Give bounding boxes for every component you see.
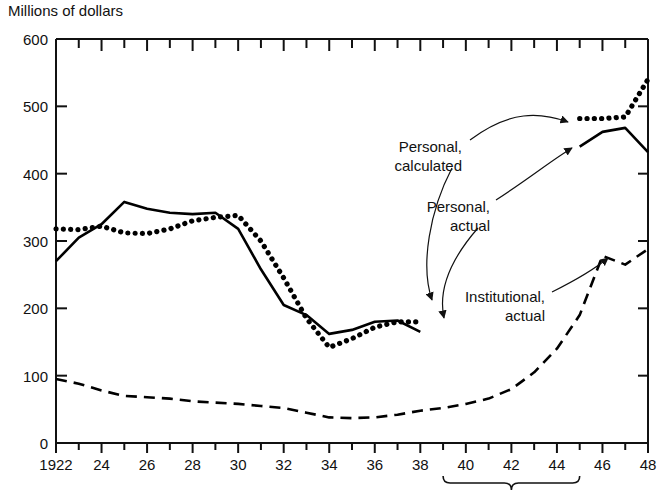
annotation-label-line2: actual	[505, 307, 545, 324]
series-path	[580, 79, 648, 118]
y-tick-label: 500	[23, 98, 48, 115]
y-tick-label: 0	[40, 435, 48, 452]
x-tick-label: 1922	[39, 456, 72, 473]
series-path	[56, 215, 420, 347]
y-tick-label: 200	[23, 300, 48, 317]
x-tick-label: 48	[640, 456, 657, 473]
war-period-bracket	[443, 476, 580, 490]
annotation-label-line1: Personal,	[399, 138, 462, 155]
x-tick-label: 24	[93, 456, 110, 473]
bracket-path	[443, 476, 580, 490]
chart-title: Millions of dollars	[8, 2, 123, 19]
y-axis-tick-labels: 0100200300400500600	[23, 31, 48, 452]
x-tick-label: 32	[275, 456, 292, 473]
x-tick-label: 36	[366, 456, 383, 473]
y-tick-label: 600	[23, 31, 48, 48]
chart-container: Millions of dollars 0100200300400500600 …	[0, 0, 665, 491]
y-tick-label: 300	[23, 233, 48, 250]
x-tick-label: 38	[412, 456, 429, 473]
x-axis-tick-labels: 192224262830323436384042444648	[39, 456, 656, 473]
annotation-arrow	[496, 148, 572, 200]
series-path	[56, 249, 648, 418]
x-tick-label: 26	[139, 456, 156, 473]
annotation-2: Institutional,actual	[465, 258, 608, 324]
x-tick-label: 46	[594, 456, 611, 473]
annotation-label-line1: Institutional,	[465, 288, 545, 305]
x-tick-label: 34	[321, 456, 338, 473]
annotation-label-line2: actual	[450, 217, 490, 234]
x-tick-label: 42	[503, 456, 520, 473]
chart-axes	[56, 39, 648, 453]
annotation-leader-arrow-0	[427, 168, 452, 300]
annotation-0: Personal,calculated	[394, 115, 568, 174]
series-path	[56, 202, 420, 334]
annotation-arrow	[470, 115, 568, 140]
data-series-layer	[56, 79, 648, 418]
y-tick-label: 400	[23, 166, 48, 183]
series-path	[580, 128, 648, 152]
annotation-layer: Personal,calculatedPersonal,actualInstit…	[394, 115, 608, 324]
x-tick-label: 30	[230, 456, 247, 473]
series-solid	[56, 128, 648, 334]
annotation-label-line2: calculated	[394, 157, 462, 174]
y-tick-label: 100	[23, 368, 48, 385]
x-tick-label: 44	[549, 456, 566, 473]
line-chart: Millions of dollars 0100200300400500600 …	[0, 0, 665, 491]
x-tick-label: 28	[184, 456, 201, 473]
x-tick-label: 40	[458, 456, 475, 473]
series-dashed	[56, 249, 648, 418]
